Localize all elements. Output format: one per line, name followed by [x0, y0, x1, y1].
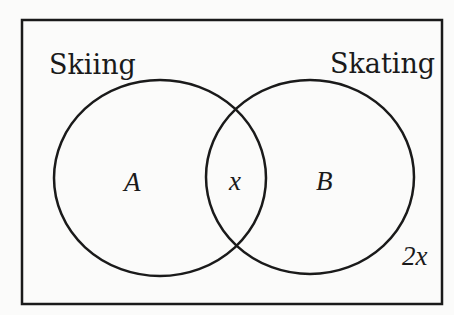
region-label-b: B	[316, 166, 333, 196]
region-label-outside: 2x	[402, 241, 428, 271]
venn-diagram: Skiing Skating A x B 2x	[0, 0, 454, 315]
region-label-a: A	[122, 167, 141, 197]
region-label-intersection: x	[228, 166, 241, 196]
set-label-skiing: Skiing	[49, 49, 136, 80]
set-label-skating: Skating	[330, 48, 435, 79]
